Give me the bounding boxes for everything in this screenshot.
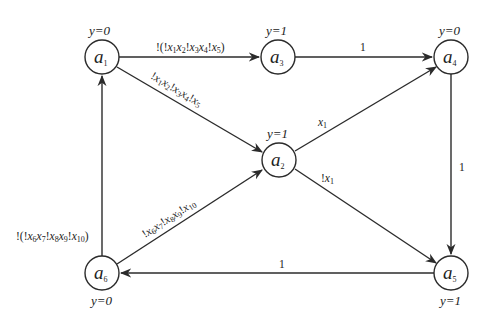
node-a3: a3 y=1 (261, 23, 295, 74)
node-a3-output: y=1 (264, 23, 287, 38)
node-a2-output: y=1 (265, 126, 288, 141)
node-a5-output: y=1 (438, 293, 461, 308)
node-a1: a1 y=0 (85, 23, 119, 74)
edge-label-a3-a4: 1 (360, 41, 366, 53)
edge-a2-a4 (295, 67, 436, 151)
node-a2: a2 y=1 (262, 126, 296, 177)
node-a6: a6 y=0 (85, 256, 119, 308)
node-a5: a5 y=1 (434, 256, 468, 308)
edge-label-a1-a3: !(!x1x2!x3x4!x5) (156, 41, 225, 55)
edge-a1-a2 (117, 67, 262, 152)
node-a1-output: y=0 (87, 23, 111, 38)
edge-a2-a5 (295, 169, 436, 263)
node-a4-output: y=0 (437, 23, 461, 38)
edge-label-a6-a2: !x6x7!x8x9!x10 (140, 196, 199, 241)
edge-a6-a2 (117, 170, 262, 264)
node-a6-output: y=0 (89, 293, 113, 308)
edge-label-a2-a5: !x1 (321, 172, 334, 186)
edge-label-a2-a4: x1 (317, 116, 327, 130)
edge-label-a5-a6: 1 (279, 258, 285, 270)
state-diagram: a1 y=0 a3 y=1 a4 y=0 a2 y=1 a6 y=0 a5 y=… (0, 0, 489, 322)
edge-label-a4-a5: 1 (459, 161, 465, 173)
node-a4: a4 y=0 (434, 23, 468, 74)
edge-label-a6-a1: !(!x6x7!x8x9!x10) (16, 230, 89, 244)
